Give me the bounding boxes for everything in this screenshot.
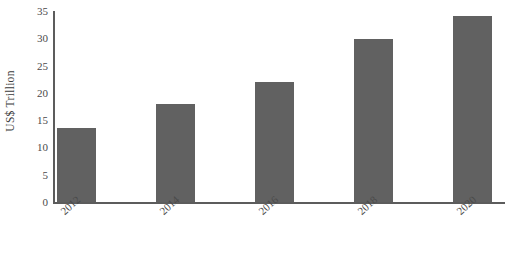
bar[interactable]: [354, 39, 393, 202]
y-axis-tick-label: 10: [22, 141, 48, 153]
y-axis-tick-label: 15: [22, 114, 48, 126]
bar[interactable]: [156, 104, 195, 202]
y-axis-tick-label: 30: [22, 32, 48, 44]
bar-chart-figure: US$ Trillion 05101520253035 201220142016…: [0, 0, 509, 256]
y-axis-tick-label: 35: [22, 5, 48, 17]
plot-area: [55, 11, 505, 202]
y-axis-tick-label: 25: [22, 60, 48, 72]
y-axis-tick-label: 5: [22, 169, 48, 181]
y-axis-tick-labels: 05101520253035: [20, 0, 48, 256]
y-axis-tick-label: 0: [22, 196, 48, 208]
bar[interactable]: [255, 82, 294, 202]
bar[interactable]: [57, 128, 96, 202]
bar[interactable]: [453, 16, 492, 202]
y-axis-title: US$ Trillion: [0, 0, 20, 202]
y-axis-tick-label: 20: [22, 87, 48, 99]
y-axis-title-text: US$ Trillion: [4, 70, 16, 131]
